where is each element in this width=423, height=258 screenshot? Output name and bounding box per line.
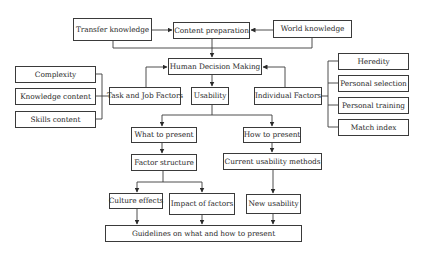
node-new-usability: New usability: [246, 194, 301, 214]
node-how-to-present: How to present: [243, 127, 301, 143]
node-current-usability-methods: Current usability methods: [223, 153, 322, 170]
node-match-index: Match index: [338, 119, 409, 136]
node-transfer-knowledge: Transfer knowledge: [73, 18, 152, 41]
node-personal-training: Personal training: [338, 97, 409, 114]
node-individual-factors: Individual Factors: [254, 87, 322, 105]
task-to-hdm-arrow: [146, 67, 167, 87]
node-usability: Usability: [191, 87, 229, 105]
diagram-canvas: Transfer knowledge Content preparation W…: [0, 0, 423, 258]
node-factor-structure: Factor structure: [131, 154, 197, 171]
individual-bracket: [328, 61, 338, 127]
node-human-decision-making: Human Decision Making: [168, 58, 262, 75]
node-knowledge-content: Knowledge content: [15, 88, 96, 105]
node-culture-effects: Culture effects: [109, 193, 163, 209]
node-world-knowledge: World knowledge: [273, 20, 352, 38]
node-task-and-job-factors: Task and Job Factors: [109, 87, 181, 105]
node-impact-of-factors: Impact of factors: [169, 193, 235, 215]
node-personal-selection: Personal selection: [338, 75, 409, 92]
node-guidelines: Guidelines on what and how to present: [105, 225, 302, 242]
node-skills-content: Skills content: [15, 111, 96, 128]
task-bracket: [96, 74, 102, 119]
node-heredity: Heredity: [338, 53, 409, 70]
node-content-preparation: Content preparation: [173, 22, 250, 39]
individual-to-hdm-arrow: [263, 67, 285, 87]
node-complexity: Complexity: [15, 66, 96, 83]
node-what-to-present: What to present: [131, 127, 197, 143]
